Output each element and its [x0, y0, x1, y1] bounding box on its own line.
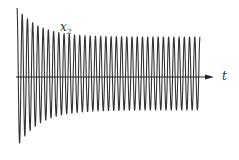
oscillation-curve [17, 8, 200, 143]
y-label-text: x [60, 20, 67, 34]
damped-oscillation-figure: x2 t [0, 0, 239, 160]
arrow-right-icon [205, 75, 214, 80]
time-label: t [222, 69, 227, 83]
y-label-subscript: 2 [67, 27, 72, 36]
y-variable-label: x2 [60, 20, 72, 36]
oscillation-plot [0, 0, 239, 160]
